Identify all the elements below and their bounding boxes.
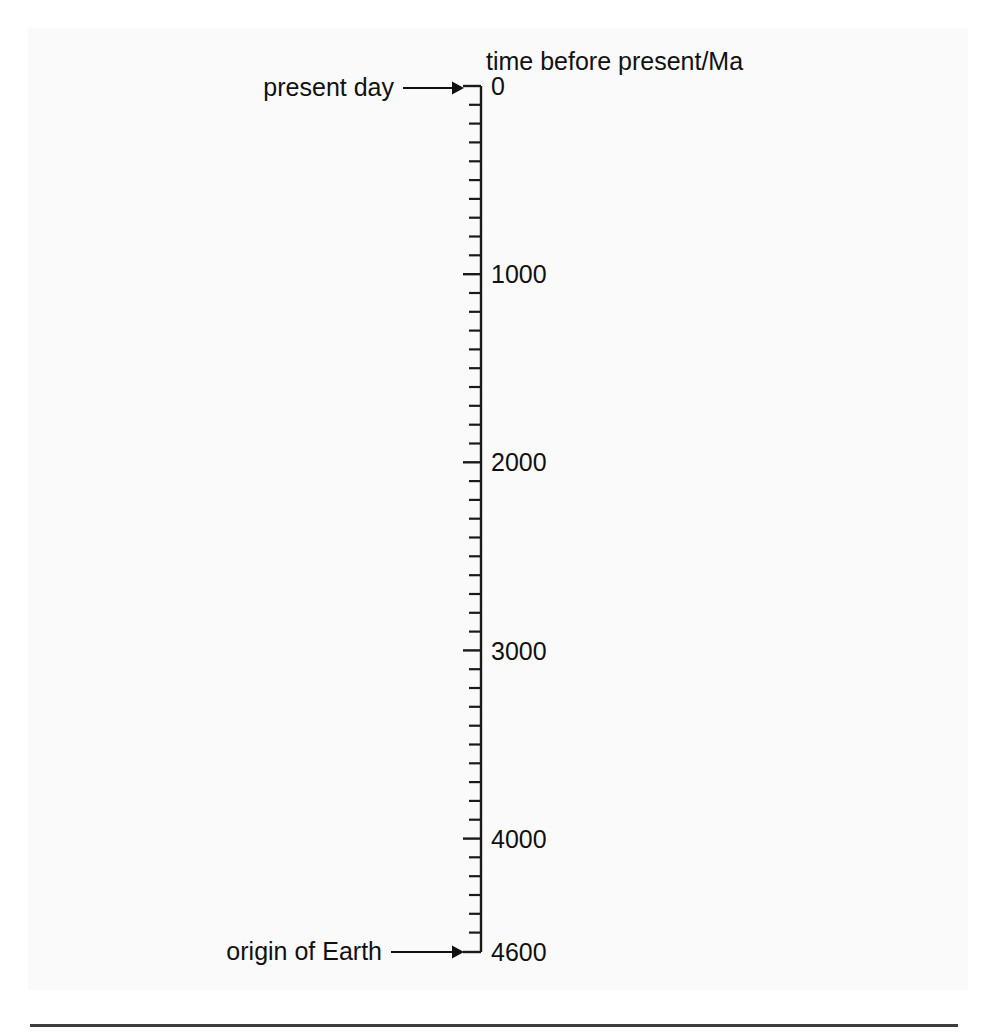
origin-of-earth-callout-arrow [391,946,464,959]
tick-label-3000: 3000 [491,637,547,665]
tick-label-2000: 2000 [491,448,547,476]
present-day-callout-arrow [403,82,464,95]
tick-label-4000: 4000 [491,825,547,853]
tick-label-1000: 1000 [491,260,547,288]
minor-tick-group [469,105,481,933]
tick-label-0: 0 [491,72,505,100]
geological-timescale-figure: time before present/Ma 0 1000 2000 3000 … [0,0,988,1000]
bottom-divider-rule [30,1024,958,1027]
tick-label-4600: 4600 [491,938,547,966]
timeline-axis-svg: time before present/Ma 0 1000 2000 3000 … [0,0,988,1000]
axis-caption: time before present/Ma [486,47,743,75]
callout-label-present-day: present day [263,73,394,101]
figure-page: time before present/Ma 0 1000 2000 3000 … [0,0,988,1036]
callout-label-origin-of-earth: origin of Earth [226,937,382,965]
